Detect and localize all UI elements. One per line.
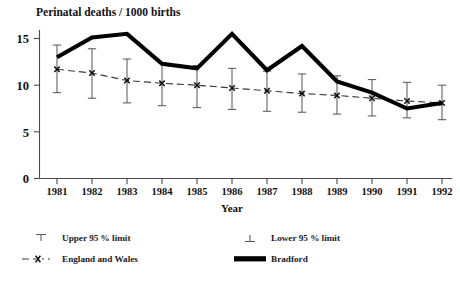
y-tick-label-15: 15 [17,32,30,46]
error-bars-group [53,45,446,120]
legend: Upper 95 % limit Lower 95 % limit Englan… [22,233,341,264]
legend-label-bradford: Bradford [271,254,308,264]
legend-label-england-and-wales: England and Wales [62,254,138,264]
y-ticks: 0 5 10 15 [17,32,40,186]
england-and-wales-icon [22,256,50,262]
x-tick-label-1982: 1982 [82,186,103,197]
x-tick-label-1981: 1981 [47,186,68,197]
x-tick-label-1990: 1990 [362,186,383,197]
chart-title: Perinatal deaths / 1000 births [36,6,181,18]
bradford-icon [234,256,266,261]
x-tick-label-1987: 1987 [257,186,278,197]
x-tick-label-1992: 1992 [432,186,453,197]
axes [40,30,453,179]
x-tick-label-1985: 1985 [187,186,208,197]
y-tick-label-10: 10 [17,79,30,93]
legend-label-lower-limit: Lower 95 % limit [271,233,341,243]
x-tick-label-1989: 1989 [327,186,348,197]
x-axis-title: Year [221,202,243,214]
y-tick-label-0: 0 [23,172,29,186]
upper-limit-icon [36,235,46,242]
x-tick-label-1983: 1983 [117,186,138,197]
scan-artifact [12,268,242,279]
series-bradford [57,34,442,109]
x-ticks: 1981 1982 1983 1984 1985 1986 1987 1988 … [47,179,453,198]
figure-container: Perinatal deaths / 1000 births 0 5 10 15 [0,0,460,282]
x-tick-label-1988: 1988 [292,186,313,197]
x-tick-label-1991: 1991 [397,186,418,197]
legend-label-upper-limit: Upper 95 % limit [62,233,131,243]
chart-svg: Perinatal deaths / 1000 births 0 5 10 15 [0,0,460,282]
y-tick-label-5: 5 [23,126,29,140]
lower-limit-icon [245,235,255,242]
x-tick-label-1984: 1984 [152,186,174,197]
x-tick-label-1986: 1986 [222,186,243,197]
